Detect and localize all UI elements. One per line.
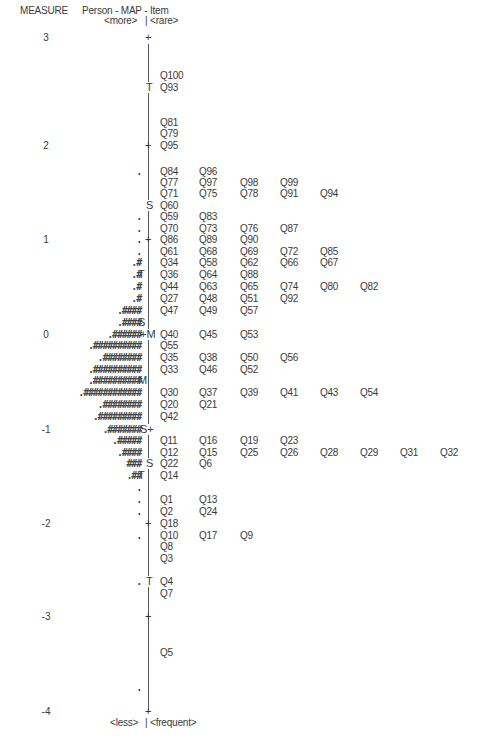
person-row: .###### — [107, 329, 141, 340]
item-label: Q23 — [280, 435, 298, 446]
person-row: . — [136, 166, 141, 177]
measure-tick-label: 2 — [36, 140, 56, 151]
item-label: Q82 — [360, 281, 378, 292]
bottom-separator: | — [145, 717, 147, 728]
item-label: Q81 — [160, 117, 178, 128]
person-row: .## — [127, 470, 141, 481]
item-label: Q89 — [199, 234, 217, 245]
item-label: Q92 — [280, 293, 298, 304]
person-row: .######## — [98, 352, 141, 363]
item-label: Q26 — [280, 447, 298, 458]
person-row: . — [136, 494, 141, 505]
item-label: Q65 — [240, 281, 258, 292]
item-label: Q77 — [160, 177, 178, 188]
person-row: ### — [127, 458, 141, 469]
item-label: Q19 — [240, 435, 258, 446]
item-label: Q56 — [280, 352, 298, 363]
item-label: Q43 — [320, 387, 338, 398]
item-label: Q97 — [199, 177, 217, 188]
item-label: Q54 — [360, 387, 378, 398]
item-label: Q45 — [199, 329, 217, 340]
bottom-left-label: <less> — [110, 717, 138, 728]
person-row: . — [136, 506, 141, 517]
measure-tick-label: -3 — [36, 611, 56, 622]
item-label: Q75 — [199, 188, 217, 199]
person-row: . — [136, 211, 141, 222]
item-label: Q4 — [160, 576, 173, 587]
item-label: Q5 — [160, 647, 173, 658]
person-row: .# — [131, 293, 141, 304]
person-row: .########## — [88, 375, 141, 386]
item-label: Q88 — [240, 269, 258, 280]
item-label: Q34 — [160, 257, 178, 268]
top-left-label: <more> — [104, 15, 137, 26]
person-row: .########## — [88, 340, 141, 351]
item-label: Q33 — [160, 364, 178, 375]
item-label: Q35 — [160, 352, 178, 363]
item-label: Q28 — [320, 447, 338, 458]
person-row: . — [136, 682, 141, 693]
person-row: .######## — [98, 399, 141, 410]
item-label: Q42 — [160, 411, 178, 422]
person-row: . — [136, 246, 141, 257]
item-label: Q31 — [400, 447, 418, 458]
distribution-marker-m: +M — [140, 329, 156, 340]
item-label: Q78 — [240, 188, 258, 199]
item-label: Q8 — [160, 541, 173, 552]
item-label: Q84 — [160, 166, 178, 177]
person-row: . — [136, 482, 141, 493]
item-label: Q9 — [240, 530, 253, 541]
item-label: Q73 — [199, 223, 217, 234]
item-label: Q30 — [160, 387, 178, 398]
item-label: Q51 — [240, 293, 258, 304]
person-row: .####### — [102, 424, 141, 435]
measure-tick-label: 1 — [36, 234, 56, 245]
distribution-marker-s: S — [146, 458, 153, 469]
bottom-right-label: <frequent> — [150, 717, 196, 728]
item-label: Q27 — [160, 293, 178, 304]
item-label: Q79 — [160, 128, 178, 139]
item-label: Q18 — [160, 518, 178, 529]
person-row: .#### — [117, 317, 141, 328]
item-label: Q83 — [199, 211, 217, 222]
item-label: Q15 — [199, 447, 217, 458]
item-label: Q24 — [199, 506, 217, 517]
item-label: Q7 — [160, 588, 173, 599]
item-label: Q53 — [240, 329, 258, 340]
item-label: Q47 — [160, 305, 178, 316]
item-label: Q11 — [160, 435, 177, 446]
top-right-label: <rare> — [150, 15, 178, 26]
person-row: .# — [131, 257, 141, 268]
item-label: Q37 — [199, 387, 217, 398]
distribution-marker-t: T — [146, 576, 153, 587]
person-row: . — [136, 530, 141, 541]
item-label: Q52 — [240, 364, 258, 375]
item-label: Q22 — [160, 458, 178, 469]
item-label: Q99 — [280, 177, 298, 188]
item-label: Q63 — [199, 281, 217, 292]
item-label: Q10 — [160, 530, 178, 541]
axis-tick-mark: + — [145, 706, 151, 717]
axis-tick-mark: + — [145, 234, 151, 245]
item-label: Q71 — [160, 188, 178, 199]
measure-tick-label: 3 — [36, 32, 56, 43]
item-label: Q1 — [160, 494, 173, 505]
item-label: Q57 — [240, 305, 258, 316]
person-row: .########## — [88, 364, 141, 375]
item-label: Q66 — [280, 257, 298, 268]
item-label: Q49 — [199, 305, 217, 316]
axis-tick-mark: + — [145, 140, 151, 151]
item-label: Q64 — [199, 269, 217, 280]
item-label: Q85 — [320, 246, 338, 257]
item-label: Q39 — [240, 387, 258, 398]
item-label: Q90 — [240, 234, 258, 245]
item-label: Q59 — [160, 211, 178, 222]
person-row: .#### — [117, 447, 141, 458]
item-label: Q61 — [160, 246, 178, 257]
person-row: .######### — [93, 411, 141, 422]
item-label: Q55 — [160, 340, 178, 351]
item-label: Q21 — [199, 399, 217, 410]
measure-header: MEASURE — [20, 5, 68, 16]
item-label: Q50 — [240, 352, 258, 363]
person-row: .# — [131, 281, 141, 292]
